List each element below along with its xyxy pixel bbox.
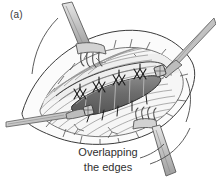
figure-panel: (a) <box>0 0 216 187</box>
caption-line-1: Overlapping <box>0 145 216 160</box>
caption-line-2: the edges <box>0 160 216 175</box>
figure-caption: Overlapping the edges <box>0 145 216 175</box>
retractor-handle <box>62 2 90 48</box>
forceps-left-tip <box>83 105 94 116</box>
